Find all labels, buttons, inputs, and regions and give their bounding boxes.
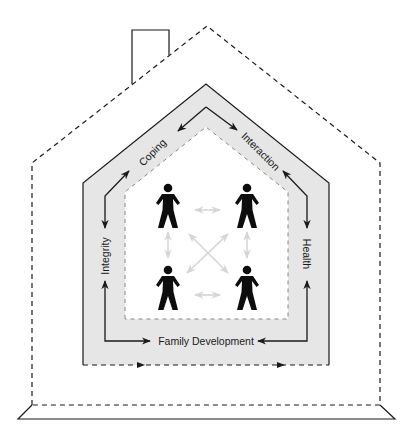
- family-process-band: [83, 84, 329, 368]
- chimney: [132, 30, 169, 84]
- label-family-development: Family Development: [158, 335, 254, 347]
- label-integrity: Integrity: [99, 237, 111, 275]
- house-base: [18, 405, 395, 419]
- family-house-diagram: Coping Interaction Integrity Health Fami…: [0, 0, 407, 444]
- label-health: Health: [301, 239, 313, 270]
